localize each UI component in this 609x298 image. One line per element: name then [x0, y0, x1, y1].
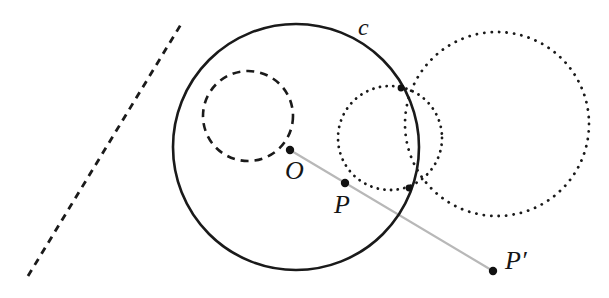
point-O-dot: [286, 146, 294, 154]
dashed-circle-through-O: [203, 71, 293, 161]
inversion-figure: O P P′ c: [0, 0, 609, 298]
large-dotted-circle: [405, 32, 589, 216]
intersection-upper-dot: [398, 85, 405, 92]
point-label-P: P: [334, 192, 350, 218]
small-dotted-circle: [338, 86, 442, 190]
circle-label-c: c: [358, 15, 369, 39]
dashed-line: [28, 21, 183, 276]
intersection-lower-dot: [406, 185, 413, 192]
ray-O-to-Pprime: [290, 150, 493, 271]
point-label-P-prime: P′: [505, 248, 527, 274]
point-P-dot: [341, 179, 349, 187]
point-label-O: O: [285, 158, 304, 184]
inversion-circle-c: [173, 24, 419, 270]
point-P-prime-dot: [489, 267, 497, 275]
